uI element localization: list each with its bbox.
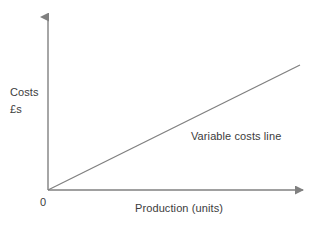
x-axis-label: Production (units)	[135, 202, 223, 214]
variable-costs-line-annotation: Variable costs line	[191, 130, 281, 142]
y-axis-units-label: £s	[10, 103, 22, 115]
chart-graphics	[0, 0, 323, 226]
y-axis-label: Costs	[10, 86, 39, 98]
chart-canvas: Costs £s 0 Production (units) Variable c…	[0, 0, 323, 226]
origin-label: 0	[40, 196, 46, 208]
variable-costs-line	[48, 65, 300, 190]
